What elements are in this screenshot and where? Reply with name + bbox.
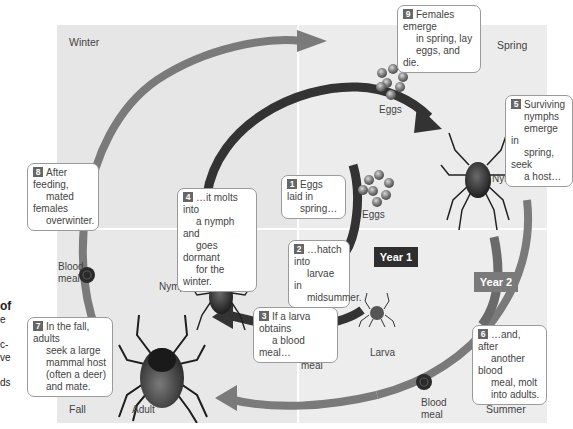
label-adult: Adult — [132, 404, 155, 416]
label-larva: Larva — [370, 347, 395, 359]
label-blood-meal-right: Blood meal — [421, 397, 447, 421]
callout-3: 3If a larva obtains a blood meal… — [253, 307, 338, 363]
cropped-caption: of e c- ve ds — [0, 300, 20, 389]
callout-8: 8After feeding, mated females overwinter… — [27, 163, 99, 231]
label-eggs-top: Eggs — [379, 104, 402, 116]
life-cycle-diagram: Winter Spring Fall Summer — [57, 25, 547, 423]
callout-4: 4…it molts into a nymph and goes dormant… — [177, 188, 257, 292]
eggs-cluster-inner — [358, 170, 394, 207]
arrowhead-summer-to-fall — [215, 385, 237, 411]
label-blood-meal-left: Blood meal — [58, 261, 84, 285]
caption-fragment-3: c- — [0, 338, 20, 351]
tick-larva — [359, 293, 395, 327]
caption-fragment-1: of — [0, 300, 20, 313]
caption-fragment-4: ve — [0, 351, 20, 364]
year-2-label: Year 2 — [474, 272, 518, 292]
arrowhead-to-nymph-spring — [414, 105, 442, 133]
blood-meal-marker-right — [416, 374, 432, 390]
caption-fragment-5: ds — [0, 376, 20, 389]
callout-5: 5Surviving nymphs emerge in spring, seek… — [505, 95, 573, 187]
callout-7: 7In the fall, adults seek a large mammal… — [27, 317, 113, 397]
label-eggs-inner: Eggs — [362, 209, 385, 221]
arrowhead-winter-to-spring — [297, 30, 327, 52]
callout-9: 9Females emerge in spring, lay eggs, and… — [397, 5, 481, 73]
caption-fragment-2: e — [0, 313, 20, 326]
year-1-label: Year 1 — [374, 247, 418, 267]
callout-2: 2…hatch into larvae in midsummer. — [288, 240, 350, 308]
callout-6: 6…and, after another blood meal, molt in… — [472, 325, 547, 405]
callout-1: 1Eggs laid in spring… — [281, 175, 346, 219]
